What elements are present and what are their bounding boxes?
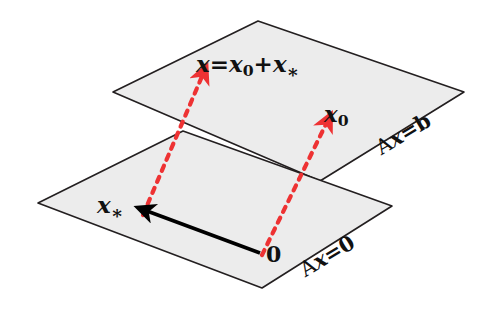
label-x: x bbox=[196, 50, 210, 77]
label-xstar-sub: ∗ bbox=[111, 202, 124, 223]
label-xstar-subscript: ∗ bbox=[287, 61, 300, 82]
diagram-canvas bbox=[0, 0, 502, 320]
label-x0-symbol: x bbox=[229, 50, 243, 77]
label-plus: + bbox=[254, 50, 273, 77]
label-origin: 0 bbox=[266, 243, 281, 265]
label-solution-vector: x=x0+x∗ bbox=[196, 52, 299, 81]
label-xstar-symbol: x bbox=[273, 50, 287, 77]
linear-algebra-diagram: x=x0+x∗ x0 x∗ 0 Ax=b Ax=0 bbox=[0, 0, 502, 320]
label-equals: = bbox=[210, 50, 229, 77]
label-x0-subscript: 0 bbox=[243, 61, 254, 80]
label-x0-base: x bbox=[324, 100, 338, 127]
label-particular-vector: x0 bbox=[324, 102, 349, 129]
label-homogeneous-vector: x∗ bbox=[97, 193, 123, 222]
label-x0-sub: 0 bbox=[338, 111, 349, 130]
label-xstar-base: x bbox=[97, 191, 111, 218]
